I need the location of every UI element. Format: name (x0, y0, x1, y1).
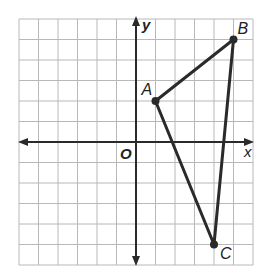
y-axis-label: y (141, 16, 151, 33)
point-label-b: B (238, 20, 249, 37)
origin-label: O (120, 145, 132, 162)
point-label-a: A (141, 81, 153, 98)
coordinate-plane: x y O ABC (0, 0, 269, 276)
point-a (152, 97, 160, 105)
segment-ca (156, 101, 215, 245)
x-axis-label: x (243, 143, 252, 160)
point-c (210, 241, 218, 249)
axes: x y O (18, 16, 254, 266)
point-label-c: C (220, 245, 232, 262)
point-b (230, 36, 238, 44)
y-axis-arrow-up-icon (132, 16, 140, 26)
